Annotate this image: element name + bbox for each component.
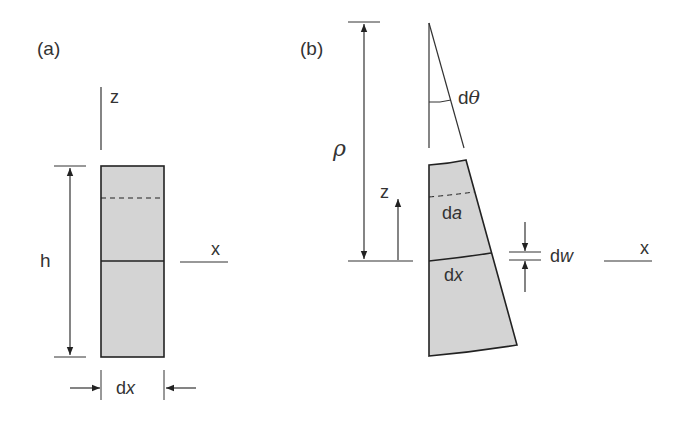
x-axis-label-b: x: [640, 238, 649, 258]
width-label: dx: [116, 378, 136, 398]
z-axis-label: z: [110, 87, 119, 107]
height-label: h: [40, 250, 51, 271]
beam-element-diagram: (a) z x h dx (b) ρ z: [0, 0, 682, 426]
length-label: dx: [444, 265, 464, 285]
angle-label: dθ: [458, 86, 481, 108]
area-label: da: [442, 203, 462, 223]
panel-a: (a) z x h dx: [37, 38, 228, 400]
panel-a-label: (a): [37, 38, 60, 59]
deflection-label: dw: [550, 246, 574, 266]
x-axis-label: x: [211, 239, 220, 259]
angle-arc: [429, 100, 451, 102]
radius-label: ρ: [332, 136, 346, 161]
panel-b-label: (b): [300, 38, 323, 59]
angle-inclined-line: [429, 23, 464, 148]
deformed-beam-element: [429, 160, 517, 356]
panel-b: (b) ρ z dθ da dx dw x: [300, 22, 652, 356]
z-axis-label-b: z: [380, 182, 389, 202]
